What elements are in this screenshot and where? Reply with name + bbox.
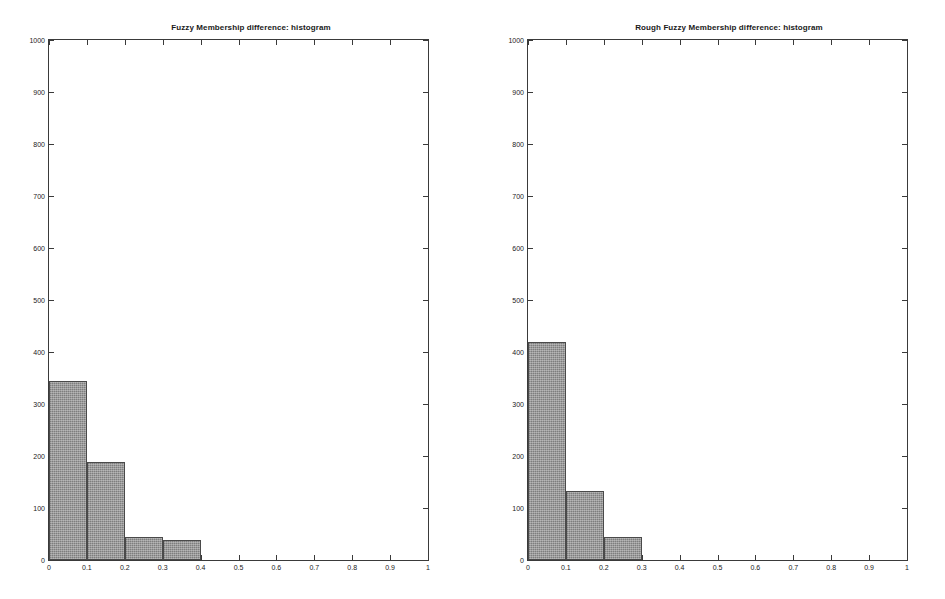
chart-panel-left: Fuzzy Membership difference: histogram 0… [0, 0, 472, 599]
chart-panel-right: Rough Fuzzy Membership difference: histo… [473, 0, 945, 599]
y-axis-tick-right [528, 92, 533, 93]
x-axis-tick-label-right: 0 [526, 564, 530, 571]
x-axis-tick-top-left [314, 40, 315, 45]
x-axis-tick-label-right: 0.4 [675, 564, 685, 571]
x-axis-tick-top-right [566, 40, 567, 45]
plot-area-left: 0100200300400500600700800900100000.10.20… [48, 39, 429, 561]
x-axis-tick-label-right: 0.2 [599, 564, 609, 571]
y-axis-tick-right-right [902, 300, 907, 301]
y-axis-tick-right-left [423, 92, 428, 93]
x-axis-tick-top-right [528, 40, 529, 45]
x-axis-tick-left [352, 555, 353, 560]
x-axis-tick-top-left [125, 40, 126, 45]
x-axis-tick-label-left: 1 [426, 564, 430, 571]
x-axis-tick-label-right: 0.9 [864, 564, 874, 571]
x-axis-tick-right [869, 555, 870, 560]
y-axis-tick-right-left [423, 508, 428, 509]
y-axis-tick-right-right [902, 456, 907, 457]
x-axis-tick-top-left [390, 40, 391, 45]
y-axis-tick-right-left [423, 560, 428, 561]
y-axis-tick-label-right: 700 [512, 193, 524, 200]
y-axis-tick-right-left [423, 196, 428, 197]
x-axis-tick-label-left: 0.8 [347, 564, 357, 571]
x-axis-tick-left [239, 555, 240, 560]
y-axis-tick-label-right: 0 [520, 557, 524, 564]
y-axis-tick-left [49, 352, 54, 353]
x-axis-tick-right [831, 555, 832, 560]
histogram-bar [604, 537, 642, 560]
y-axis-tick-right-left [423, 352, 428, 353]
y-axis-tick-right-right [902, 508, 907, 509]
x-axis-tick-label-right: 0.7 [788, 564, 798, 571]
x-axis-tick-label-right: 0.1 [561, 564, 571, 571]
histogram-bar [163, 540, 201, 560]
x-axis-tick-left [201, 555, 202, 560]
y-axis-tick-label-left: 100 [33, 505, 45, 512]
y-axis-tick-label-left: 0 [41, 557, 45, 564]
x-axis-tick-left [314, 555, 315, 560]
x-axis-tick-right [718, 555, 719, 560]
x-axis-tick-label-left: 0.2 [120, 564, 130, 571]
y-axis-tick-label-right: 500 [512, 297, 524, 304]
x-axis-tick-right [642, 555, 643, 560]
x-axis-tick-top-right [604, 40, 605, 45]
x-axis-tick-label-left: 0 [47, 564, 51, 571]
x-axis-tick-label-right: 0.5 [713, 564, 723, 571]
x-axis-tick-top-right [793, 40, 794, 45]
y-axis-tick-left [49, 92, 54, 93]
histogram-bar [49, 381, 87, 560]
y-axis-tick-left [49, 560, 54, 561]
histogram-bar [528, 342, 566, 560]
y-axis-tick-label-left: 1000 [29, 37, 45, 44]
y-axis-tick-label-left: 200 [33, 453, 45, 460]
x-axis-tick-top-left [201, 40, 202, 45]
x-axis-tick-top-right [755, 40, 756, 45]
y-axis-tick-label-right: 600 [512, 245, 524, 252]
x-axis-tick-top-right [642, 40, 643, 45]
x-axis-tick-top-left [428, 40, 429, 45]
x-axis-tick-label-left: 0.1 [82, 564, 92, 571]
y-axis-tick-right-right [902, 248, 907, 249]
x-axis-tick-label-right: 0.3 [637, 564, 647, 571]
y-axis-tick-label-left: 900 [33, 89, 45, 96]
y-axis-tick-label-right: 800 [512, 141, 524, 148]
y-axis-tick-right-left [423, 144, 428, 145]
y-axis-tick-left [49, 300, 54, 301]
y-axis-tick-right-left [423, 456, 428, 457]
x-axis-tick-top-right [718, 40, 719, 45]
x-axis-tick-label-left: 0.7 [309, 564, 319, 571]
y-axis-tick-label-right: 200 [512, 453, 524, 460]
x-axis-tick-label-left: 0.5 [234, 564, 244, 571]
y-axis-tick-right [528, 560, 533, 561]
x-axis-tick-top-left [276, 40, 277, 45]
y-axis-tick-right-right [902, 352, 907, 353]
y-axis-tick-label-right: 100 [512, 505, 524, 512]
x-axis-tick-label-right: 0.6 [751, 564, 761, 571]
x-axis-tick-top-left [239, 40, 240, 45]
y-axis-tick-right-left [423, 404, 428, 405]
x-axis-tick-label-left: 0.3 [158, 564, 168, 571]
x-axis-tick-top-left [352, 40, 353, 45]
y-axis-tick-right [528, 300, 533, 301]
y-axis-tick-right [528, 144, 533, 145]
x-axis-tick-label-left: 0.4 [196, 564, 206, 571]
x-axis-tick-top-right [831, 40, 832, 45]
y-axis-tick-label-right: 400 [512, 349, 524, 356]
plot-area-right: 0100200300400500600700800900100000.10.20… [527, 39, 908, 561]
y-axis-tick-right-right [902, 92, 907, 93]
chart-title-right: Rough Fuzzy Membership difference: histo… [493, 23, 945, 32]
x-axis-tick-left [428, 555, 429, 560]
y-axis-tick-right-left [423, 300, 428, 301]
y-axis-tick-right-right [902, 560, 907, 561]
x-axis-tick-right [907, 555, 908, 560]
x-axis-tick-right [793, 555, 794, 560]
x-axis-tick-top-left [163, 40, 164, 45]
y-axis-tick-label-left: 600 [33, 245, 45, 252]
y-axis-tick-label-left: 300 [33, 401, 45, 408]
y-axis-tick-right-left [423, 248, 428, 249]
x-axis-tick-top-right [680, 40, 681, 45]
x-axis-tick-top-right [907, 40, 908, 45]
y-axis-tick-label-right: 900 [512, 89, 524, 96]
y-axis-tick-right-right [902, 196, 907, 197]
histogram-bar [87, 462, 125, 560]
